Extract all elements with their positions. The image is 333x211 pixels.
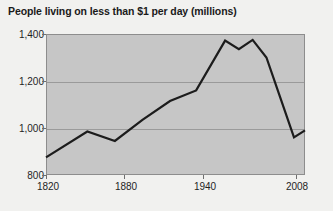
y-tick-label-1000: 1,000 xyxy=(19,123,44,134)
plot-area-wrapper xyxy=(46,34,305,175)
x-tick-label-1820: 1820 xyxy=(37,181,59,192)
x-tick-mark-2008 xyxy=(296,175,297,179)
x-tick-mark-1820 xyxy=(46,175,47,179)
chart-figure: People living on less than $1 per day (m… xyxy=(0,0,333,211)
chart-title: People living on less than $1 per day (m… xyxy=(8,5,237,17)
x-tick-label-1880: 1880 xyxy=(115,181,137,192)
y-tick-label-1200: 1,200 xyxy=(19,76,44,87)
x-tick-mark-1880 xyxy=(124,175,125,179)
series-line-poverty xyxy=(46,40,305,158)
y-tick-label-1400: 1,400 xyxy=(19,29,44,40)
x-tick-mark-1940 xyxy=(203,175,204,179)
x-tick-label-2008: 2008 xyxy=(286,181,308,192)
data-line-svg xyxy=(46,34,305,175)
x-tick-label-1940: 1940 xyxy=(194,181,216,192)
